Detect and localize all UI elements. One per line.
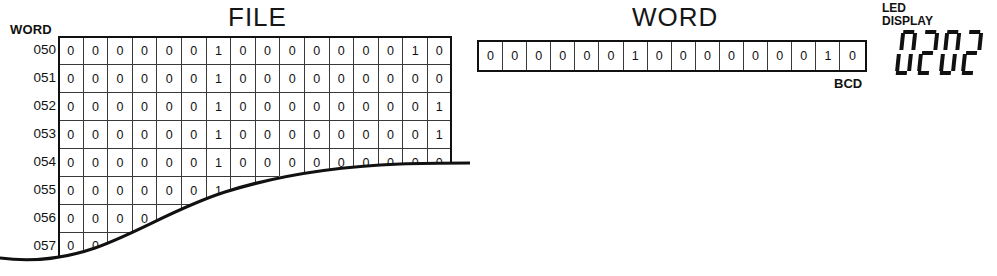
- file-row-cells: 0000001000000001: [58, 120, 452, 148]
- file-bit-cell: 0: [132, 148, 157, 176]
- file-bit-cell: 0: [132, 120, 157, 148]
- file-bit-cell: 0: [58, 176, 83, 204]
- file-bit-cell: 1: [427, 92, 452, 120]
- led-segment-f: [943, 33, 949, 50]
- file-bit-cell: 0: [83, 148, 108, 176]
- file-bit-cell: 0: [378, 92, 403, 120]
- file-bit-cell: 0: [83, 92, 108, 120]
- led-segment-c: [929, 54, 935, 71]
- led-digit-3: [960, 30, 984, 76]
- led-segment-f: [965, 33, 971, 50]
- file-row-address-label: 055: [26, 176, 56, 204]
- file-bit-cell: 0: [107, 204, 132, 232]
- led-segment-g: [900, 51, 911, 55]
- word-bit-cell: 0: [503, 42, 527, 70]
- file-bit-cell: 0: [181, 92, 206, 120]
- file-bit-cell: 0: [156, 176, 181, 204]
- file-bit-cell: 0: [58, 36, 83, 64]
- file-word-column-caption: WORD: [10, 22, 52, 37]
- word-bit-cell: 0: [575, 42, 599, 70]
- file-bit-cell: 0: [181, 64, 206, 92]
- file-bit-cell: 0: [181, 120, 206, 148]
- file-bit-cell: 0: [427, 64, 452, 92]
- file-bit-cell: 0: [427, 148, 452, 176]
- file-bit-cell: 0: [230, 36, 255, 64]
- file-bit-cell: 0: [230, 92, 255, 120]
- file-bit-cell: 0: [181, 176, 206, 204]
- file-bit-cell: 0: [230, 120, 255, 148]
- file-row-056: 056000000: [0, 204, 460, 232]
- file-bit-cell: 0: [132, 36, 157, 64]
- file-bit-cell: 0: [329, 92, 354, 120]
- file-row-053: 0530000001000000001: [0, 120, 460, 148]
- led-segment-d: [896, 71, 907, 75]
- file-bit-cell: 0: [107, 232, 132, 260]
- file-bit-cell: 0: [378, 36, 403, 64]
- file-row-cells: 0000001000000000: [58, 64, 452, 92]
- file-bit-cell: 0: [132, 64, 157, 92]
- file-bit-cell: 0: [402, 92, 427, 120]
- file-bit-cell: 0: [353, 36, 378, 64]
- file-bit-cell: 0: [402, 148, 427, 176]
- file-bit-cell: 0: [107, 120, 132, 148]
- led-segment-g: [944, 51, 955, 55]
- file-bit-cell: 1: [206, 64, 231, 92]
- file-bit-cell: 0: [107, 148, 132, 176]
- word-bit-cell: 0: [648, 42, 672, 70]
- file-row-address-label: 057: [26, 232, 56, 260]
- word-bit-cell: 0: [696, 42, 720, 70]
- file-bit-cell: 1: [206, 92, 231, 120]
- file-bit-cell: 0: [107, 64, 132, 92]
- led-segment-f: [921, 33, 927, 50]
- file-row-address-label: 050: [26, 36, 56, 64]
- led-digit-0: [894, 30, 918, 76]
- led-segment-g: [966, 51, 977, 55]
- file-bit-cell: 0: [255, 64, 280, 92]
- file-bit-cell: 0: [107, 92, 132, 120]
- file-bit-cell: 0: [255, 120, 280, 148]
- file-row-cells: 0000001000000000: [58, 148, 452, 176]
- led-segment-e: [895, 54, 901, 71]
- file-bit-cell: 0: [279, 36, 304, 64]
- file-bit-cell: 0: [255, 148, 280, 176]
- file-bit-cell: 0: [230, 176, 255, 204]
- file-row-address-label: 051: [26, 64, 56, 92]
- file-bit-cell: 0: [378, 64, 403, 92]
- file-bit-cell: 0: [156, 92, 181, 120]
- file-bit-cell: 0: [58, 120, 83, 148]
- led-segment-b: [955, 33, 961, 50]
- file-bit-cell: 0: [83, 36, 108, 64]
- file-bit-cell: 0: [378, 148, 403, 176]
- file-row-cells: 000000: [58, 204, 206, 232]
- file-bit-cell: 0: [132, 232, 157, 260]
- file-row-052: 0520000001000000001: [0, 92, 460, 120]
- file-bit-cell: 0: [353, 64, 378, 92]
- file-bit-cell: 0: [304, 36, 329, 64]
- word-bit-cell: 0: [672, 42, 696, 70]
- file-bit-cell: 0: [58, 232, 83, 260]
- file-row-cells: 0000: [58, 232, 156, 260]
- led-segment-e: [961, 54, 967, 71]
- word-bit-cell: 0: [840, 42, 864, 70]
- led-seven-segment-display: [896, 30, 981, 76]
- file-bit-cell: 0: [329, 120, 354, 148]
- led-digit-1: [916, 30, 940, 76]
- file-row-cells: 0000001000000001: [58, 92, 452, 120]
- file-bit-cell: 0: [107, 176, 132, 204]
- file-memory-grid: 0500000001000000010051000000100000000005…: [0, 36, 460, 268]
- led-segment-d: [918, 71, 929, 75]
- file-bit-cell: 0: [83, 64, 108, 92]
- file-bit-cell: 0: [156, 36, 181, 64]
- file-bit-cell: 0: [230, 148, 255, 176]
- file-bit-cell: 0: [329, 64, 354, 92]
- led-segment-g: [922, 51, 933, 55]
- file-row-address-label: 056: [26, 204, 56, 232]
- word-bit-cell: 0: [599, 42, 623, 70]
- file-bit-cell: 0: [156, 204, 181, 232]
- led-segment-b: [933, 33, 939, 50]
- file-bit-cell: 0: [304, 120, 329, 148]
- file-bit-cell: 1: [427, 120, 452, 148]
- led-segment-b: [977, 33, 983, 50]
- file-bit-cell: 0: [156, 64, 181, 92]
- led-segment-c: [973, 54, 979, 71]
